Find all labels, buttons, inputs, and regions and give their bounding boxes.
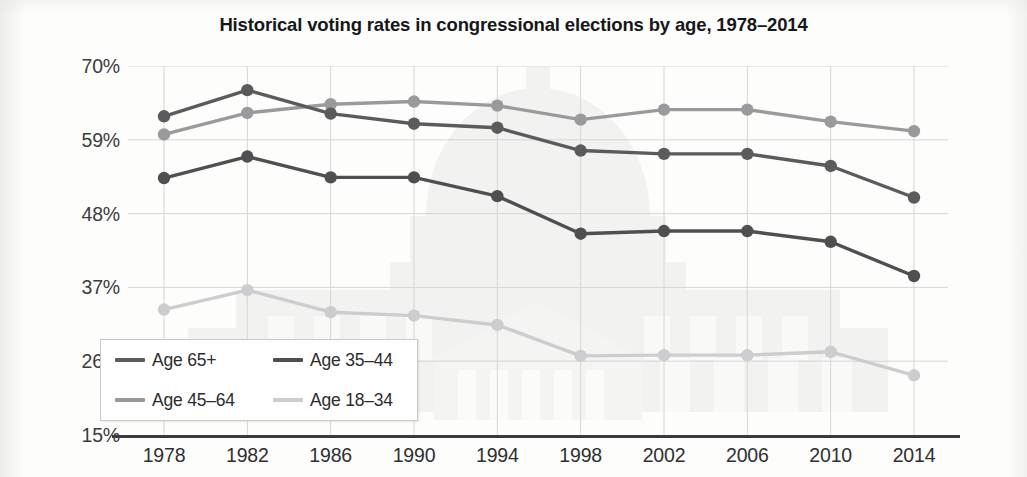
data-point: [741, 225, 753, 237]
data-point: [658, 349, 670, 361]
data-point: [574, 350, 586, 362]
y-axis-tick-label: 15%: [40, 424, 120, 447]
y-axis-tick-label: 70%: [40, 55, 120, 78]
data-point: [824, 115, 836, 127]
legend-swatch-icon: [115, 358, 145, 361]
data-point: [158, 128, 170, 140]
legend-label: Age 45–64: [152, 390, 235, 411]
data-point: [324, 107, 336, 119]
data-point: [158, 110, 170, 122]
data-point: [324, 306, 336, 318]
x-axis-tick-label: 2006: [705, 444, 789, 467]
x-axis-tick-label: 2010: [789, 444, 873, 467]
data-point: [491, 122, 503, 134]
data-point: [658, 103, 670, 115]
data-point: [491, 99, 503, 111]
y-axis-tick-label: 48%: [40, 202, 120, 225]
data-point: [741, 349, 753, 361]
legend-label: Age 65+: [152, 350, 216, 371]
data-point: [658, 148, 670, 160]
data-point: [408, 117, 420, 129]
data-point: [241, 150, 253, 162]
data-point: [158, 172, 170, 184]
series-line: [164, 90, 914, 197]
data-point: [491, 190, 503, 202]
data-point: [908, 191, 920, 203]
series-line: [164, 157, 914, 276]
data-point: [241, 84, 253, 96]
legend-label: Age 18–34: [310, 390, 393, 411]
x-axis-tick-label: 1982: [205, 444, 289, 467]
legend-item[interactable]: Age 45–64: [101, 390, 259, 411]
x-axis-tick-label: 1990: [372, 444, 456, 467]
legend-swatch-icon: [273, 398, 303, 401]
data-point: [908, 369, 920, 381]
legend-label: Age 35–44: [310, 350, 393, 371]
x-axis-tick-label: 1978: [122, 444, 206, 467]
data-point: [824, 236, 836, 248]
x-axis-tick-label: 2014: [872, 444, 956, 467]
data-point: [241, 107, 253, 119]
data-point: [324, 171, 336, 183]
chart-figure: Historical voting rates in congressional…: [0, 0, 1027, 477]
data-point: [824, 160, 836, 172]
data-point: [658, 225, 670, 237]
x-axis-tick-label: 1994: [455, 444, 539, 467]
y-axis-tick-label: 59%: [40, 128, 120, 151]
data-point: [158, 303, 170, 315]
x-axis-line: [112, 435, 960, 438]
x-axis-tick-label: 1986: [289, 444, 373, 467]
data-point: [824, 346, 836, 358]
data-point: [908, 270, 920, 282]
data-point: [574, 113, 586, 125]
legend-item[interactable]: Age 18–34: [259, 390, 417, 411]
x-axis-tick-label: 1998: [539, 444, 623, 467]
legend-item[interactable]: Age 65+: [101, 350, 259, 371]
data-point: [408, 95, 420, 107]
data-point: [908, 125, 920, 137]
series-line: [164, 102, 914, 135]
data-point: [574, 228, 586, 240]
legend-swatch-icon: [273, 358, 303, 361]
chart-title: Historical voting rates in congressional…: [0, 14, 1027, 36]
data-point: [574, 144, 586, 156]
data-point: [491, 319, 503, 331]
x-axis-tick-label: 2002: [622, 444, 706, 467]
chart-legend: Age 65+Age 35–44Age 45–64Age 18–34: [100, 339, 418, 421]
y-axis-tick-label: 37%: [40, 276, 120, 299]
legend-item[interactable]: Age 35–44: [259, 350, 417, 371]
data-point: [741, 103, 753, 115]
data-point: [241, 284, 253, 296]
data-point: [741, 148, 753, 160]
data-point: [408, 171, 420, 183]
data-point: [408, 309, 420, 321]
legend-swatch-icon: [115, 398, 145, 401]
